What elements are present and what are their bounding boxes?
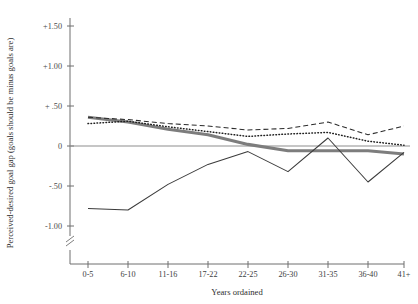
x-tick-label-6: 31-35 <box>318 270 337 279</box>
x-axis-tick-labels: 0-5 6-10 11-16 17-22 22-25 26-30 31-35 3… <box>83 270 411 279</box>
y-tick-label-4: -.50 <box>49 182 62 191</box>
chart-container: +1.50 +1.00 + .50 0 -.50 -1.00 0-5 6-10 … <box>0 0 418 304</box>
y-axis-title: Perceived-desired goal gap (goals should… <box>5 38 15 249</box>
x-tick-label-7: 36-40 <box>358 270 377 279</box>
x-tick-label-3: 17-22 <box>198 270 217 279</box>
y-axis-tick-labels: +1.50 +1.00 + .50 0 -.50 -1.00 <box>43 22 62 231</box>
series-thin-solid <box>88 138 404 210</box>
x-tick-label-0: 0-5 <box>83 270 94 279</box>
x-tick-label-4: 22-25 <box>238 270 257 279</box>
x-axis-title: Years ordained <box>211 287 263 297</box>
data-series-group <box>88 117 404 210</box>
y-tick-label-0: +1.50 <box>43 22 62 31</box>
x-tick-label-8: 41+ <box>398 270 411 279</box>
x-tick-label-2: 11-16 <box>159 270 178 279</box>
y-tick-label-1: +1.00 <box>43 62 62 71</box>
y-tick-label-5: -1.00 <box>45 222 62 231</box>
x-tick-label-1: 6-10 <box>120 270 135 279</box>
y-tick-label-2: + .50 <box>45 102 62 111</box>
x-tick-label-5: 26-30 <box>278 270 297 279</box>
series-dashed <box>88 117 404 135</box>
line-chart: +1.50 +1.00 + .50 0 -.50 -1.00 0-5 6-10 … <box>0 0 418 304</box>
y-tick-label-3: 0 <box>58 142 62 151</box>
